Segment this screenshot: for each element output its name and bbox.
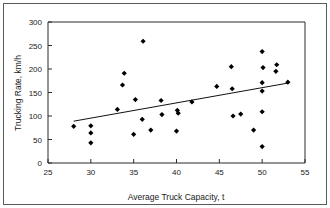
data-point-marker	[238, 112, 243, 117]
scatter-plot: 050100150200250300 25303540455055 Averag…	[0, 0, 330, 208]
x-axis-label: Average Truck Capacity, t	[128, 192, 225, 202]
x-axis-ticks	[48, 159, 305, 163]
x-tick-label: 50	[258, 168, 267, 177]
x-tick-label: 25	[44, 168, 53, 177]
data-point-marker	[260, 65, 265, 70]
data-point-marker	[260, 88, 265, 93]
data-point-marker	[122, 71, 127, 76]
data-point-marker	[230, 113, 235, 118]
data-point-marker	[230, 86, 235, 91]
y-tick-label: 250	[29, 42, 43, 51]
y-axis-label: Trucking Rate, km/h	[13, 55, 23, 131]
x-axis-tick-labels: 25303540455055	[44, 168, 310, 177]
data-point-marker	[115, 107, 120, 112]
y-tick-label: 100	[29, 112, 43, 121]
trend-line-segment	[74, 83, 288, 121]
data-point-marker	[140, 39, 145, 44]
data-point-marker	[260, 80, 265, 85]
data-point-marker	[214, 84, 219, 89]
data-point-marker	[120, 82, 125, 87]
data-point-marker	[133, 97, 138, 102]
plot-frame	[48, 22, 305, 163]
y-tick-label: 200	[29, 65, 43, 74]
data-point-marker	[88, 140, 93, 145]
data-point-marker	[158, 98, 163, 103]
x-tick-label: 40	[172, 168, 181, 177]
trend-line	[74, 83, 288, 121]
data-point-marker	[260, 144, 265, 149]
y-tick-label: 150	[29, 89, 43, 98]
y-tick-label: 300	[29, 18, 43, 27]
data-points	[71, 39, 290, 149]
data-point-marker	[273, 69, 278, 74]
data-point-marker	[260, 109, 265, 114]
data-point-marker	[251, 128, 256, 133]
x-tick-label: 55	[301, 168, 310, 177]
data-point-marker	[88, 130, 93, 135]
data-point-marker	[260, 49, 265, 54]
y-axis-ticks	[48, 22, 52, 163]
data-point-marker	[71, 124, 76, 129]
y-tick-label: 0	[38, 159, 43, 168]
y-tick-label: 50	[33, 136, 42, 145]
data-point-marker	[140, 117, 145, 122]
data-point-marker	[159, 112, 164, 117]
data-point-marker	[229, 64, 234, 69]
data-point-marker	[274, 62, 279, 67]
data-point-marker	[285, 80, 290, 85]
data-point-marker	[148, 128, 153, 133]
data-point-marker	[88, 123, 93, 128]
data-point-marker	[131, 132, 136, 137]
x-tick-label: 30	[86, 168, 95, 177]
chart-figure: 050100150200250300 25303540455055 Averag…	[0, 0, 330, 208]
x-tick-label: 45	[215, 168, 224, 177]
x-tick-label: 35	[129, 168, 138, 177]
y-axis-tick-labels: 050100150200250300	[29, 18, 43, 168]
data-point-marker	[174, 128, 179, 133]
